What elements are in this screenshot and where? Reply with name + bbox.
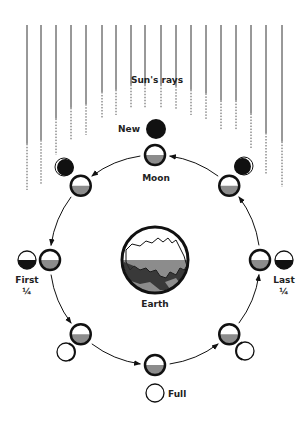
full-moon-label: Full [168, 389, 186, 399]
orbit-arc-arrow [92, 344, 141, 364]
new-moon-label: New [118, 124, 140, 134]
orbit-arc-arrow [170, 344, 219, 364]
orbit-moon-full [145, 355, 165, 375]
orbit-moon-waning-crescent [219, 176, 239, 196]
orbit-moon-last-quarter [250, 250, 270, 270]
first-quarter-label: First [15, 275, 39, 285]
apparent-moon-full [146, 384, 164, 402]
orbit-moon-waning-gibbous [219, 324, 239, 344]
orbit-moon-new [145, 145, 165, 165]
orbit-moon-waxing-crescent [71, 176, 91, 196]
last-quarter-label: Last [273, 275, 295, 285]
orbit-arc-arrow [170, 156, 219, 176]
apparent-moon-waxing-gibbous [57, 343, 75, 361]
sun-rays-label: Sun's rays [131, 75, 183, 85]
orbit-arc-arrow [239, 275, 259, 324]
orbit-arc-arrow [51, 197, 71, 246]
apparent-moon-last-quarter [275, 251, 293, 269]
apparent-moon-new [146, 119, 166, 139]
orbit-arc-arrow [239, 197, 259, 246]
apparent-moon-first-quarter [18, 251, 36, 269]
apparent-moon-waning-crescent [234, 157, 253, 175]
apparent-moon-waxing-crescent [55, 158, 74, 176]
moon-phases-diagram: Sun's rays Earth New Moon First ¼ Last ¼… [0, 0, 306, 422]
first-quarter-fraction: ¼ [22, 287, 31, 297]
moon-label: Moon [142, 173, 170, 183]
orbit-arc-arrow [92, 156, 141, 176]
last-quarter-fraction: ¼ [279, 287, 288, 297]
apparent-moon-waning-gibbous [236, 342, 254, 360]
earth [120, 225, 190, 295]
orbit-moon-first-quarter [40, 250, 60, 270]
earth-label: Earth [141, 299, 168, 309]
orbit-arc-arrow [51, 275, 71, 324]
orbit-moon-waxing-gibbous [71, 324, 91, 344]
